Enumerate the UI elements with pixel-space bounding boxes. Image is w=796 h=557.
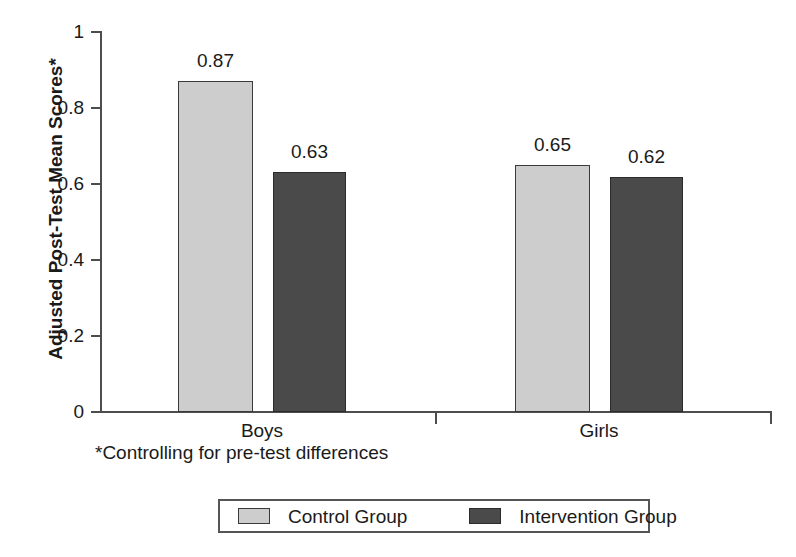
y-tick-label-0: 0: [26, 402, 84, 421]
legend-label-intervention-group: Intervention Group: [519, 507, 676, 526]
bar-value-girls-control: 0.65: [513, 135, 592, 154]
y-tick-label-0.8: 0.8: [26, 98, 84, 117]
x-tick-mark-group-separator: [435, 413, 437, 424]
y-tick-mark-1: [91, 31, 101, 33]
y-axis-title: Adjusted Post-Test Mean Scores*: [45, 9, 67, 409]
legend-label-control-group: Control Group: [288, 507, 407, 526]
x-axis-label-boys: Boys: [222, 421, 302, 440]
legend-entry-control-group: Control Group: [238, 501, 407, 531]
y-tick-label-1: 1: [26, 22, 84, 41]
bar-girls-control[interactable]: [515, 165, 590, 412]
legend-entry-intervention-group: Intervention Group: [469, 501, 676, 531]
bar-chart-figure: Adjusted Post-Test Mean Scores* 1 0.8 0.…: [0, 0, 796, 557]
chart-footnote: *Controlling for pre-test differences: [95, 443, 388, 462]
y-tick-label-0.4: 0.4: [26, 250, 84, 269]
chart-legend: Control Group Intervention Group: [218, 499, 650, 533]
legend-swatch-intervention-group: [469, 508, 501, 524]
bar-value-boys-intervention: 0.63: [270, 142, 349, 161]
x-axis-label-girls: Girls: [559, 421, 639, 440]
bar-value-boys-control: 0.87: [176, 51, 255, 70]
y-tick-mark-0.2: [91, 335, 101, 337]
x-tick-mark-right-end: [770, 413, 772, 424]
y-tick-mark-0.6: [91, 183, 101, 185]
bar-value-girls-intervention: 0.62: [607, 147, 686, 166]
y-tick-mark-0.8: [91, 107, 101, 109]
bar-boys-control[interactable]: [178, 81, 253, 412]
y-axis-line: [100, 31, 102, 413]
bar-girls-intervention[interactable]: [610, 177, 683, 412]
y-tick-label-0.2: 0.2: [26, 326, 84, 345]
y-tick-mark-0.4: [91, 259, 101, 261]
y-tick-label-0.6: 0.6: [26, 174, 84, 193]
legend-swatch-control-group: [238, 508, 270, 524]
y-tick-mark-0: [91, 411, 101, 413]
bar-boys-intervention[interactable]: [273, 172, 346, 412]
